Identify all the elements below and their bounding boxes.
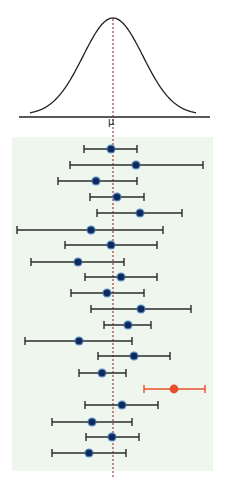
point-estimate	[88, 227, 95, 234]
point-estimate	[118, 274, 125, 281]
confidence-interval-chart	[0, 0, 225, 482]
point-estimate-outlier	[170, 385, 179, 394]
point-estimate	[137, 210, 144, 217]
point-estimate	[138, 306, 145, 313]
point-estimate	[108, 242, 115, 249]
mean-label: μ	[108, 116, 114, 127]
point-estimate	[114, 194, 121, 201]
point-estimate	[108, 146, 115, 153]
point-estimate	[119, 402, 126, 409]
point-estimate	[104, 290, 111, 297]
point-estimate	[89, 419, 96, 426]
point-estimate	[109, 434, 116, 441]
point-estimate	[93, 178, 100, 185]
point-estimate	[76, 338, 83, 345]
point-estimate	[99, 370, 106, 377]
point-estimate	[125, 322, 132, 329]
normal-distribution-curve	[19, 18, 210, 117]
point-estimate	[75, 259, 82, 266]
point-estimate	[86, 450, 93, 457]
point-estimate	[133, 162, 140, 169]
point-estimate	[131, 353, 138, 360]
